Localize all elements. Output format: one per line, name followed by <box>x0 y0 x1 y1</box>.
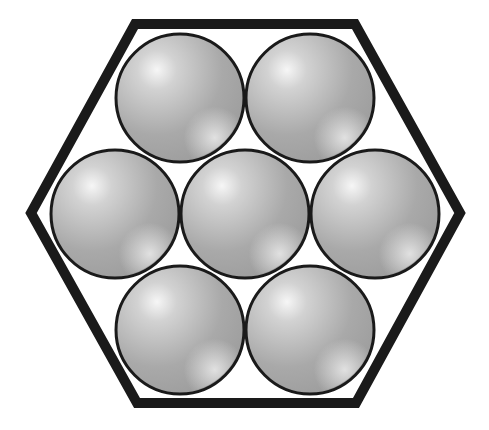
sphere-bottom-right <box>246 266 374 394</box>
hexagon-packing-diagram <box>0 0 489 430</box>
sphere-center <box>181 150 309 278</box>
sphere-bottom-left <box>116 266 244 394</box>
sphere-top-left <box>116 34 244 162</box>
sphere-middle-left <box>51 150 179 278</box>
sphere-top-right <box>246 34 374 162</box>
sphere-middle-right <box>311 150 439 278</box>
